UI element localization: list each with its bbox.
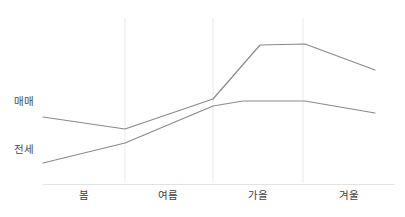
series-label-jeonse: 전세 xyxy=(14,144,34,155)
series-label-maemae: 매매 xyxy=(14,96,34,107)
x-axis-tick-winter: 겨울 xyxy=(339,190,359,201)
chart-plot-area xyxy=(0,0,405,217)
x-axis-tick-autumn: 가을 xyxy=(248,190,268,201)
series-line-maemae xyxy=(43,44,375,129)
series-line-jeonse xyxy=(43,101,375,163)
line-chart: 매매 전세 봄 여름 가을 겨울 xyxy=(0,0,405,217)
x-axis-tick-summer: 여름 xyxy=(158,190,178,201)
x-axis-tick-spring: 봄 xyxy=(79,190,89,201)
